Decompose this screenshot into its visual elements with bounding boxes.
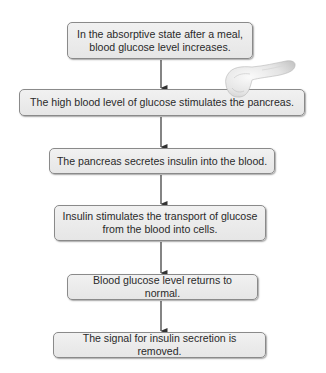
flowchart: In the absorptive state after a meal, bl… [0,0,326,373]
flow-step-3-text: The pancreas secretes insulin into the b… [57,155,267,168]
pancreas-icon [222,58,298,100]
flow-step-3: The pancreas secretes insulin into the b… [49,148,275,174]
flow-step-4-line-2: from the blood into cells. [63,223,258,236]
flow-step-5-text: Blood glucose level returns to normal. [74,274,251,300]
flow-step-1-line-2: blood glucose level increases. [77,41,243,54]
flow-step-6: The signal for insulin secretion is remo… [53,332,266,358]
flow-step-1-line-1: In the absorptive state after a meal, [77,28,243,41]
flow-step-4: Insulin stimulates the transport of gluc… [54,205,266,241]
flow-step-4-line-1: Insulin stimulates the transport of gluc… [63,210,258,223]
flow-step-6-text: The signal for insulin secretion is remo… [60,332,259,358]
flow-step-1: In the absorptive state after a meal, bl… [67,22,253,59]
flow-step-5: Blood glucose level returns to normal. [67,274,258,300]
